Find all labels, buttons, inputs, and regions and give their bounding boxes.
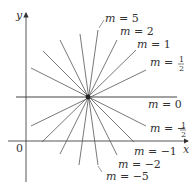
label-m-neg-half: m = − 1 2 — [150, 121, 186, 139]
svg-text:m =: m = — [150, 56, 173, 69]
leader-m5 — [99, 20, 104, 28]
label-m-2: m = 2 — [120, 25, 154, 38]
x-axis-label: x — [183, 143, 190, 156]
label-m-5: m = 5 — [105, 12, 139, 25]
svg-text:1: 1 — [181, 121, 186, 130]
svg-text:2: 2 — [181, 130, 186, 139]
label-m-neg-5: m = −5 — [106, 170, 149, 183]
slope-line — [80, 34, 98, 165]
label-m-half: m = 1 2 — [150, 55, 184, 73]
svg-text:2: 2 — [179, 64, 184, 73]
slope-family-diagram: x y 0 m = 5 m = 2 m = 1 m = 1 2 m = 0 m … — [0, 0, 195, 191]
origin-label: 0 — [16, 142, 23, 155]
label-m-1: m = 1 — [137, 38, 171, 51]
y-axis-label: y — [15, 9, 23, 22]
label-m-neg-1: m = −1 — [134, 145, 177, 158]
leader-mneg5 — [98, 166, 102, 172]
center-point — [86, 95, 91, 100]
diagram-svg: x y 0 m = 5 m = 2 m = 1 m = 1 2 m = 0 m … — [0, 0, 195, 191]
svg-text:1: 1 — [179, 55, 184, 64]
label-m-0: m = 0 — [148, 98, 182, 111]
